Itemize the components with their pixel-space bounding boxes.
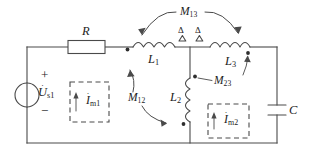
- inductor-l3-symbol: [210, 43, 250, 48]
- mesh-current-2-label: I · m2: [224, 113, 238, 127]
- inductor-l2-label: L2: [170, 91, 181, 106]
- arrowhead-m13-right: [234, 27, 242, 34]
- leader-m23-to-l2: [198, 78, 212, 81]
- resistor-symbol: [68, 41, 105, 54]
- inductor-l3-label: L3: [225, 55, 236, 70]
- source-minus-sign: −: [41, 104, 48, 117]
- coupling-m13-label: M13: [180, 6, 197, 19]
- coupling-arc-m13-right: [205, 12, 238, 33]
- inductor-l1-letter: L: [148, 52, 155, 66]
- delta-left-label: Δ: [178, 26, 184, 35]
- inductor-l2-subscript: 2: [177, 96, 181, 105]
- capacitor-label: C: [289, 104, 297, 117]
- inductor-l1-subscript: 1: [155, 58, 159, 67]
- coupling-arc-m13-left: [142, 12, 176, 35]
- arrowhead-m23: [244, 56, 251, 63]
- phasor-dot-accent: ·: [41, 81, 44, 90]
- delta-marker-left: [179, 36, 186, 42]
- coupling-m23-subscript: 23: [224, 79, 232, 88]
- mesh-loop-1-arrowhead: [73, 92, 78, 99]
- inductor-l1-label: L1: [148, 53, 159, 68]
- inductor-l3-subscript: 3: [232, 60, 236, 69]
- inductor-l3-letter: L: [225, 54, 232, 68]
- delta-marker-right: [196, 36, 203, 42]
- inductor-l2-letter: L: [170, 90, 177, 104]
- coupling-m12-letter: M: [128, 91, 138, 103]
- source-plus-sign: +: [41, 68, 48, 81]
- arrowhead-m12-lower: [161, 120, 167, 127]
- coupling-m13-letter: M: [180, 5, 190, 17]
- mesh-loop-2-arrowhead: [211, 112, 216, 119]
- delta-right-label: Δ: [195, 26, 201, 35]
- resistor-label: R: [82, 25, 90, 38]
- inductor-l2-symbol: [186, 78, 191, 122]
- mesh-current-2-dot-accent: ·: [225, 108, 228, 117]
- coupling-m12-label: M12: [128, 92, 145, 105]
- coupling-m13-subscript: 13: [190, 10, 198, 19]
- voltage-source-label: U · s1: [38, 86, 54, 101]
- coupling-arc-m12-lower: [142, 106, 166, 123]
- coupling-m12-subscript: 12: [138, 96, 146, 105]
- voltage-source-subscript: s1: [47, 91, 54, 100]
- coupling-m23-letter: M: [214, 74, 224, 86]
- polarity-dot-l2-bottom: [182, 122, 186, 126]
- inductor-l1-symbol: [133, 43, 175, 48]
- mesh-current-1-label: I · m1: [86, 94, 100, 108]
- schematic-canvas: [0, 0, 310, 166]
- mesh-current-1-subscript: m1: [90, 99, 100, 108]
- polarity-dot-l3: [246, 51, 250, 55]
- circuit-diagram: U · s1 + − R L1 L2 L3 C M13 M12 M23 I · …: [0, 0, 310, 166]
- coupling-m23-label: M23: [214, 75, 231, 88]
- mesh-current-1-dot-accent: ·: [87, 89, 90, 98]
- mesh-current-2-subscript: m2: [228, 118, 238, 127]
- polarity-dot-l2-top: [193, 75, 197, 79]
- polarity-dot-l1: [126, 48, 130, 52]
